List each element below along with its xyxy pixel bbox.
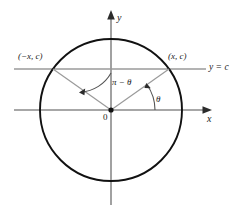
x-axis-label: x <box>207 114 211 124</box>
y-axis-arrowhead <box>107 10 115 20</box>
point-label-left: (−x, c) <box>18 52 43 61</box>
origin-label: 0 <box>103 113 108 122</box>
trigonometry-diagram: y x 0 (x, c) (−x, c) y = c π − θ θ <box>0 0 244 213</box>
y-axis-label: y <box>117 13 121 23</box>
angle-arc-pi-minus-theta <box>79 73 111 95</box>
line-equation-label: y = c <box>209 63 229 73</box>
angle-arc-theta <box>144 83 155 110</box>
angle-label-pi-minus-theta: π − θ <box>112 78 132 87</box>
point-label-right: (x, c) <box>168 52 186 61</box>
diagram-canvas <box>0 0 244 213</box>
radius-to-point-left <box>53 69 111 110</box>
origin-dot <box>108 107 113 112</box>
angle-label-theta: θ <box>156 95 160 104</box>
